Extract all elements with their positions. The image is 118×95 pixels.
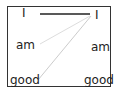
- link-good-to-I: [38, 16, 91, 80]
- left-word-I: I: [22, 7, 26, 19]
- right-word-good: good: [84, 74, 114, 86]
- left-word-good: good: [10, 74, 40, 86]
- right-word-I: I: [95, 9, 99, 21]
- link-am-to-I: [40, 16, 90, 44]
- left-word-am: am: [16, 39, 35, 51]
- right-word-am: am: [91, 41, 110, 53]
